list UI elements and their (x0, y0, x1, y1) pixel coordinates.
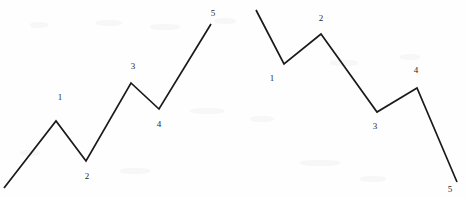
wave-label-left-5: 5 (211, 9, 216, 18)
corrective-wave-down-line (256, 10, 457, 182)
wave-label-right-4: 4 (414, 66, 419, 75)
wave-label-left-4: 4 (157, 120, 162, 129)
impulse-wave-up-line (4, 24, 211, 188)
figure-canvas: 1 2 3 4 5 1 2 3 4 5 (0, 0, 467, 197)
wave-label-left-1: 1 (58, 93, 63, 102)
wave-label-right-2: 2 (319, 14, 324, 23)
wave-diagram-svg (0, 0, 467, 197)
wave-label-right-5: 5 (448, 185, 453, 194)
wave-label-right-3: 3 (373, 122, 378, 131)
wave-label-left-2: 2 (85, 172, 90, 181)
wave-label-right-1: 1 (270, 74, 275, 83)
wave-label-left-3: 3 (131, 62, 136, 71)
